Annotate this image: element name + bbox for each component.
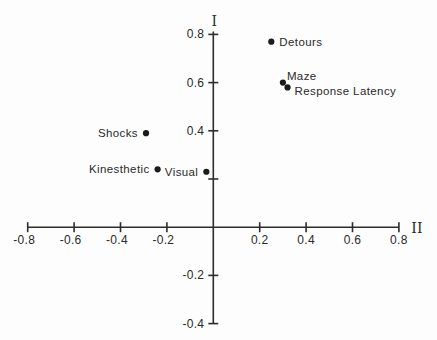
scatter-plot: -0.8-0.6-0.4-0.20.20.40.60.80.80.60.4-0.… xyxy=(0,0,437,340)
data-point-label: Kinesthetic xyxy=(89,163,150,175)
x-tick-label: 0.2 xyxy=(251,233,269,247)
data-point-label: Shocks xyxy=(98,127,138,139)
y-tick-label: -0.4 xyxy=(182,317,204,331)
data-point-dot xyxy=(284,84,290,90)
axis-I-label: I xyxy=(212,13,218,29)
data-point-label: Maze xyxy=(287,70,317,82)
axis-II-label: II xyxy=(411,220,422,236)
x-tick-label: -0.2 xyxy=(152,233,174,247)
data-point-label: Visual xyxy=(165,166,199,178)
data-point-dot xyxy=(268,39,274,45)
y-tick-label: 0.8 xyxy=(187,27,205,41)
data-point-dot xyxy=(280,80,286,86)
x-tick-label: 0.6 xyxy=(344,233,362,247)
figure-canvas: -0.8-0.6-0.4-0.20.20.40.60.80.80.60.4-0.… xyxy=(0,0,437,340)
data-point-label: Detours xyxy=(279,36,322,48)
x-tick-label: 0.8 xyxy=(390,233,408,247)
data-point-dot xyxy=(155,166,161,172)
x-tick-label: -0.6 xyxy=(60,233,82,247)
x-tick-label: -0.8 xyxy=(13,233,35,247)
y-tick-label: 0.4 xyxy=(187,124,205,138)
data-point-dot xyxy=(143,130,149,136)
data-point-dot xyxy=(203,169,209,175)
y-tick-label: 0.6 xyxy=(187,76,205,90)
y-tick-label: -0.2 xyxy=(182,268,204,282)
x-tick-label: -0.4 xyxy=(106,233,128,247)
x-tick-label: 0.4 xyxy=(297,233,315,247)
data-point-label: Response Latency xyxy=(295,85,397,97)
